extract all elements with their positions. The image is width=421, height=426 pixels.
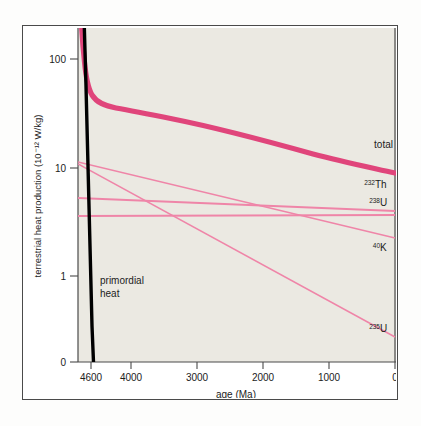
- series-label-235U-element: U: [380, 323, 387, 334]
- series-label-total: total: [374, 139, 393, 150]
- y-tick-marks: [70, 59, 78, 362]
- x-tick-label-4600: 4600: [80, 372, 103, 383]
- y-tick-label-1: 1: [60, 271, 66, 282]
- x-tick-label-4000: 4000: [120, 372, 143, 383]
- series-label-238U-element: U: [380, 197, 387, 208]
- series-label-40K-element: K: [380, 242, 387, 253]
- chart-canvas: 100 10 1 0 4600 4000 3000 2000 1000 0 ag…: [23, 26, 396, 398]
- y-tick-label-100: 100: [49, 54, 66, 65]
- x-tick-label-0: 0: [392, 372, 396, 383]
- primordial-heat-label-line2: heat: [100, 288, 120, 299]
- x-tick-label-1000: 1000: [318, 372, 341, 383]
- y-axis-title: terrestrial heat production (10⁻¹² W/kg): [32, 115, 43, 278]
- y-tick-label-0: 0: [60, 357, 66, 368]
- figure-frame: 100 10 1 0 4600 4000 3000 2000 1000 0 ag…: [22, 25, 398, 400]
- x-tick-label-3000: 3000: [186, 372, 209, 383]
- series-line-238U: [78, 215, 395, 216]
- series-label-235U-mass: 235: [369, 323, 380, 330]
- x-tick-label-2000: 2000: [252, 372, 275, 383]
- series-label-232Th-element: Th: [375, 179, 387, 190]
- figure-root: 100 10 1 0 4600 4000 3000 2000 1000 0 ag…: [0, 0, 421, 426]
- x-axis-title: age (Ma): [216, 389, 256, 398]
- y-tick-label-10: 10: [55, 163, 67, 174]
- series-label-232Th-mass: 232: [364, 179, 375, 186]
- primordial-heat-label-line1: primordial: [100, 275, 144, 286]
- series-label-238U-mass: 238: [369, 197, 380, 204]
- x-tick-marks: [91, 362, 395, 369]
